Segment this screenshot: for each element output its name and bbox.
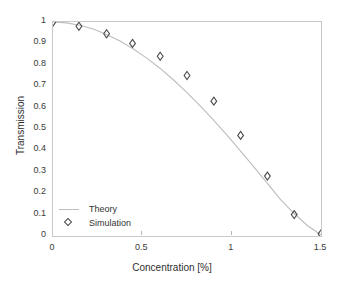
y-tick-label: 0: [8, 230, 46, 239]
y-tick-label: 0.8: [8, 59, 46, 68]
legend-marker-swatch: [58, 217, 80, 229]
data-point-marker: [265, 172, 271, 180]
diamond-marker-icon: [64, 218, 72, 226]
x-tick-label: 0.5: [121, 243, 161, 252]
y-tick-label: 0.4: [8, 144, 46, 153]
y-tick-label: 0.3: [8, 166, 46, 175]
x-tick-mark: [231, 231, 232, 235]
x-tick-mark: [141, 231, 142, 235]
x-axis-label: Concentration [%]: [0, 262, 344, 273]
y-tick-label: 0.5: [8, 123, 46, 132]
x-tick-label: 1.5: [300, 243, 340, 252]
data-point-marker: [157, 52, 163, 60]
data-point-marker: [76, 22, 82, 30]
x-tick-label: 0: [32, 243, 72, 252]
data-point-marker: [130, 39, 136, 47]
legend-entry-simulation: Simulation: [58, 217, 131, 229]
chart-figure: Transmission 00.10.20.30.40.50.60.70.80.…: [0, 0, 344, 285]
legend-label-theory: Theory: [89, 204, 117, 214]
line-sample-icon: [59, 209, 79, 210]
y-tick-label: 0.6: [8, 102, 46, 111]
data-point-marker: [211, 97, 217, 105]
legend-label-simulation: Simulation: [89, 218, 131, 228]
y-tick-label: 0.2: [8, 187, 46, 196]
data-point-marker: [238, 131, 244, 139]
legend-line-swatch: [58, 203, 80, 215]
y-tick-label: 0.1: [8, 209, 46, 218]
legend-entry-theory: Theory: [58, 203, 117, 215]
data-point-marker: [184, 72, 190, 80]
y-tick-label: 0.7: [8, 80, 46, 89]
y-tick-label: 0.9: [8, 37, 46, 46]
chart-legend: Theory Simulation: [58, 203, 164, 231]
x-tick-label: 1: [211, 243, 251, 252]
y-tick-label: 1: [8, 16, 46, 25]
